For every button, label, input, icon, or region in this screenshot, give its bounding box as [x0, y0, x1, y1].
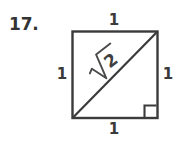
side-label-right: 1: [161, 67, 175, 82]
geometry-figure: 17. 1 1 1 1 2: [0, 0, 192, 143]
side-label-left: 1: [55, 67, 69, 82]
right-angle-icon: [145, 106, 157, 118]
side-label-bottom: 1: [106, 122, 122, 137]
side-label-top: 1: [106, 13, 122, 28]
